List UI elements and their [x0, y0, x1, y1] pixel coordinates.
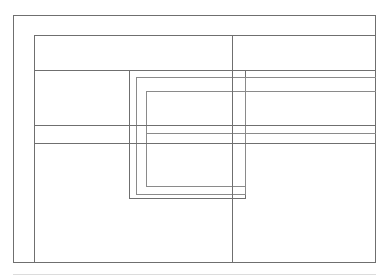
panel-inner-top-extension-right-line: [246, 91, 376, 92]
panel-inner-rect: [146, 91, 246, 187]
mid-divider-lower-line: [34, 143, 376, 144]
page-baseline-line: [13, 274, 376, 275]
wireframe-canvas: [0, 0, 390, 280]
panel-top-extension-right-line: [246, 77, 376, 78]
header-divider-line: [34, 70, 376, 71]
mid-divider-center-line: [146, 133, 376, 134]
column-divider-line: [232, 35, 233, 263]
mid-divider-upper-line: [34, 125, 376, 126]
